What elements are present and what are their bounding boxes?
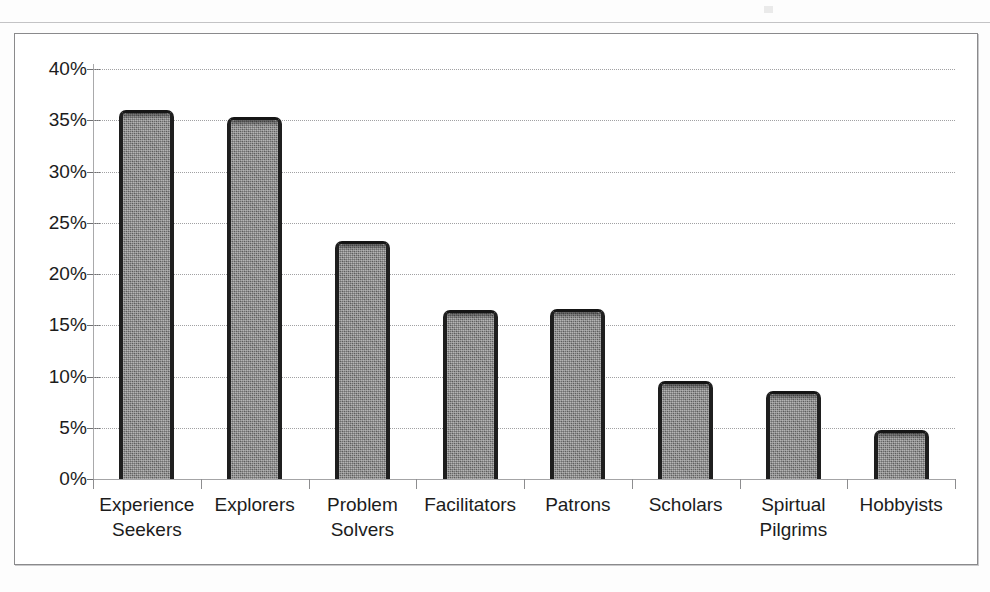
x-axis-tick <box>740 479 741 489</box>
bar-slot <box>632 69 740 479</box>
x-axis-category-label: Hobbyists <box>847 492 955 542</box>
x-axis-ticks <box>93 479 955 490</box>
bar-slot <box>309 69 417 479</box>
x-axis-category-label-line: Problem <box>311 492 415 517</box>
y-axis-tick-label: 30% <box>25 161 87 183</box>
page-root: { "chart_data": { "type": "bar", "title"… <box>0 0 990 592</box>
x-axis-category-label-line: Scholars <box>634 492 738 517</box>
bar[interactable] <box>119 110 174 479</box>
bar[interactable] <box>443 310 498 479</box>
x-axis-category-label-line: Pilgrims <box>742 517 846 542</box>
x-axis-tick <box>632 479 633 489</box>
x-axis-category-label-line: Explorers <box>203 492 307 517</box>
bar-series <box>93 69 955 479</box>
x-axis-category-label-line: Hobbyists <box>849 492 953 517</box>
bar-slot <box>416 69 524 479</box>
y-axis-labels: 0%5%10%15%20%25%30%35%40% <box>25 34 87 566</box>
x-axis-tick <box>416 479 417 489</box>
bar-slot <box>201 69 309 479</box>
y-axis-tick-label: 20% <box>25 263 87 285</box>
x-axis-category-label: Explorers <box>201 492 309 542</box>
x-axis-category-label-line: Patrons <box>526 492 630 517</box>
bar-slot <box>524 69 632 479</box>
y-axis-tick-label: 5% <box>25 417 87 439</box>
x-axis-category-label-line: Solvers <box>311 517 415 542</box>
chart-frame: 0%5%10%15%20%25%30%35%40% ExperienceSeek… <box>14 33 978 565</box>
y-axis-tick-label: 15% <box>25 314 87 336</box>
x-axis-category-label-line: Spirtual <box>742 492 846 517</box>
y-axis-tick-label: 35% <box>25 109 87 131</box>
bar-slot <box>740 69 848 479</box>
bar-slot <box>847 69 955 479</box>
x-axis-category-label-line: Facilitators <box>418 492 522 517</box>
x-axis-tick <box>847 479 848 489</box>
x-axis-category-label-line: Experience <box>95 492 199 517</box>
bar[interactable] <box>766 391 821 479</box>
x-axis-tick <box>93 479 94 489</box>
y-axis-tick-label: 25% <box>25 212 87 234</box>
x-axis-tick <box>955 479 956 489</box>
x-axis-labels: ExperienceSeekersExplorersProblemSolvers… <box>93 492 955 542</box>
bar[interactable] <box>874 430 929 479</box>
y-axis-tick-label: 40% <box>25 58 87 80</box>
x-axis-tick <box>201 479 202 489</box>
x-axis-category-label: Patrons <box>524 492 632 542</box>
scan-artifact-line <box>0 22 990 23</box>
bar[interactable] <box>335 241 390 479</box>
bar-slot <box>93 69 201 479</box>
x-axis-category-label: Facilitators <box>416 492 524 542</box>
x-axis-tick <box>524 479 525 489</box>
x-axis-category-label: ExperienceSeekers <box>93 492 201 542</box>
bar[interactable] <box>658 381 713 479</box>
bar[interactable] <box>227 117 282 479</box>
x-axis-category-label: Scholars <box>632 492 740 542</box>
y-axis-tick-label: 0% <box>25 468 87 490</box>
x-axis-tick <box>309 479 310 489</box>
x-axis-category-label: SpirtualPilgrims <box>740 492 848 542</box>
x-axis-category-label: ProblemSolvers <box>309 492 417 542</box>
bar[interactable] <box>550 309 605 479</box>
chart-plot-wrapper: 0%5%10%15%20%25%30%35%40% ExperienceSeek… <box>15 34 979 566</box>
scan-artifact-speck <box>764 6 773 13</box>
y-axis-tick-label: 10% <box>25 366 87 388</box>
x-axis-category-label-line: Seekers <box>95 517 199 542</box>
